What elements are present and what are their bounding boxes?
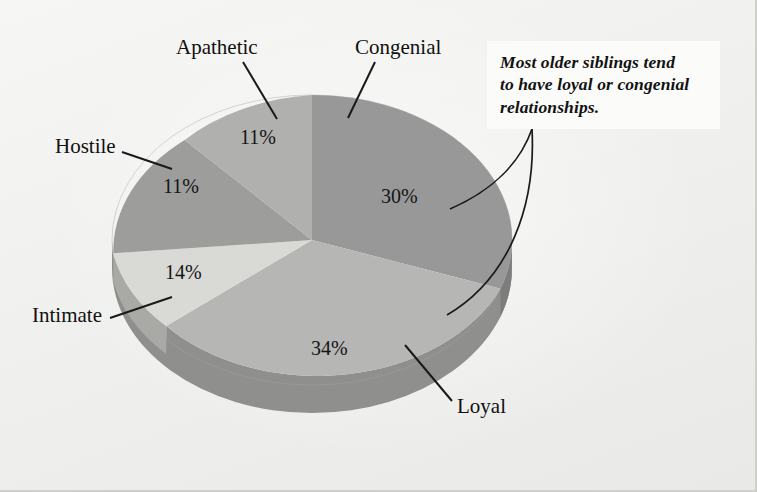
slice-label-hostile: Hostile	[55, 136, 116, 157]
slice-value-apathetic: 11%	[240, 127, 276, 147]
callout-text: Most older siblings tend to have loyal o…	[500, 51, 708, 118]
slice-value-hostile: 11%	[163, 176, 199, 196]
slice-label-apathetic: Apathetic	[176, 37, 258, 58]
pie-chart-figure: Most older siblings tend to have loyal o…	[0, 0, 757, 492]
slice-label-loyal: Loyal	[457, 396, 506, 417]
slice-value-congenial: 30%	[381, 186, 418, 206]
slice-value-intimate: 14%	[165, 262, 202, 282]
slice-label-intimate: Intimate	[32, 305, 102, 326]
callout-box: Most older siblings tend to have loyal o…	[487, 41, 720, 129]
slice-label-congenial: Congenial	[355, 37, 441, 58]
slice-value-loyal: 34%	[311, 338, 348, 358]
